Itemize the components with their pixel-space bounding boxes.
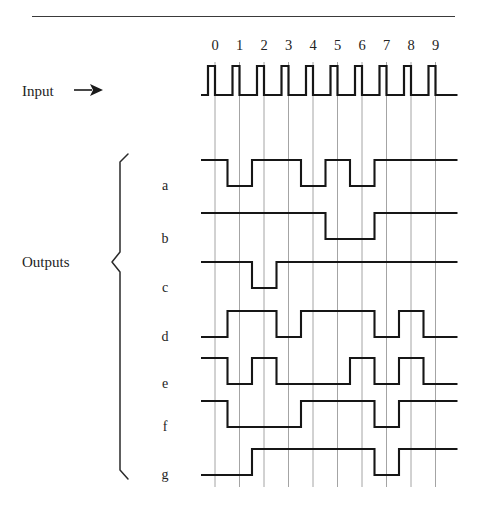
input-clock-waveform bbox=[201, 66, 458, 95]
timing-diagram-figure: Input Outputs 0123456789 abcdefg bbox=[0, 0, 480, 506]
input-arrow bbox=[74, 84, 103, 96]
outputs-brace bbox=[112, 154, 128, 479]
clock-pulse-train bbox=[201, 66, 458, 95]
grid-lines bbox=[215, 62, 436, 487]
waveform-canvas bbox=[0, 0, 480, 506]
